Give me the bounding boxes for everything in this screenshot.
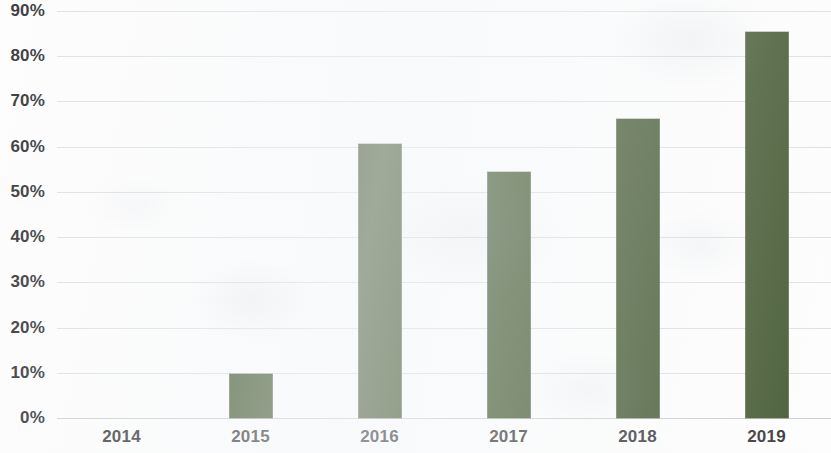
bar-slot bbox=[702, 11, 831, 418]
y-axis-tick-label: 30% bbox=[10, 272, 45, 292]
y-axis-tick-label: 90% bbox=[10, 1, 45, 21]
y-axis-tick-label: 80% bbox=[10, 46, 45, 66]
bar bbox=[745, 32, 788, 418]
bar-slot bbox=[573, 11, 702, 418]
x-axis-tick-label: 2018 bbox=[618, 427, 657, 447]
chart-page: 0%10%20%30%40%50%60%70%80%90% 2014201520… bbox=[0, 0, 831, 453]
y-axis-tick-label: 50% bbox=[10, 182, 45, 202]
plot-area: 0%10%20%30%40%50%60%70%80%90% 2014201520… bbox=[57, 11, 831, 418]
y-axis-tick-label: 20% bbox=[10, 318, 45, 338]
y-axis-tick-label: 0% bbox=[20, 408, 45, 428]
bar-slot bbox=[57, 11, 186, 418]
bar-slot bbox=[444, 11, 573, 418]
y-axis-tick-label: 70% bbox=[10, 91, 45, 111]
x-axis-tick-label: 2016 bbox=[360, 427, 399, 447]
x-axis-tick-label: 2014 bbox=[102, 427, 141, 447]
y-axis-tick-label: 60% bbox=[10, 137, 45, 157]
bar bbox=[229, 374, 272, 418]
gridline bbox=[57, 418, 831, 419]
y-axis-tick-label: 10% bbox=[10, 363, 45, 383]
x-axis-tick-label: 2015 bbox=[231, 427, 270, 447]
bar bbox=[487, 172, 530, 418]
x-axis-tick-label: 2017 bbox=[489, 427, 528, 447]
bar-slot bbox=[186, 11, 315, 418]
bar-slot bbox=[315, 11, 444, 418]
y-axis-tick-label: 40% bbox=[10, 227, 45, 247]
bar bbox=[358, 144, 401, 418]
bar bbox=[616, 119, 659, 418]
bar-series bbox=[57, 11, 831, 418]
x-axis-tick-label: 2019 bbox=[747, 427, 786, 447]
